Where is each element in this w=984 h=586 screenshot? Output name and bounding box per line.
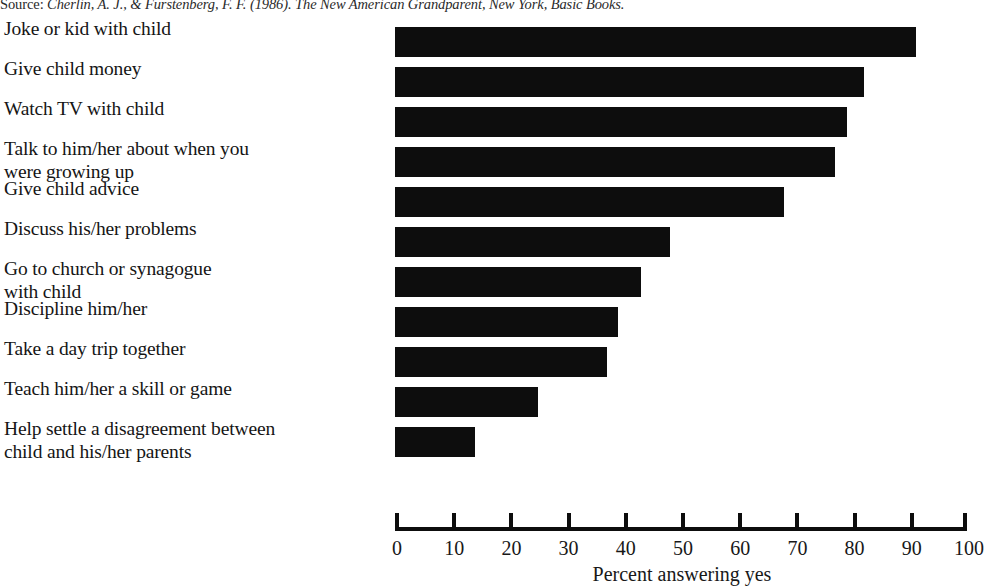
source-prefix: Source:	[0, 0, 44, 12]
bar	[395, 307, 618, 337]
bar	[395, 67, 864, 97]
x-axis-tick-labels: 0102030405060708090100	[395, 536, 973, 562]
x-axis-tick-label: 50	[673, 536, 693, 560]
x-axis-tick-label: 100	[954, 536, 984, 560]
x-axis-tick-label: 70	[787, 536, 807, 560]
x-axis-tick	[567, 513, 571, 530]
category-label-line: Give child money	[4, 57, 388, 80]
category-label: Teach him/her a skill or game	[4, 377, 388, 400]
category-label-line: Take a day trip together	[4, 337, 388, 360]
x-axis-tick-label: 30	[559, 536, 579, 560]
category-label: Give child money	[4, 57, 388, 80]
source-text: Cherlin, A. J., & Furstenberg, F. F. (19…	[44, 0, 625, 12]
x-axis-tick	[963, 513, 967, 530]
category-label-line: Watch TV with child	[4, 97, 388, 120]
bar	[395, 227, 670, 257]
x-axis-tick	[910, 513, 914, 530]
source-citation: Source: Cherlin, A. J., & Furstenberg, F…	[0, 0, 969, 14]
bar	[395, 147, 835, 177]
x-axis-tick-label: 90	[902, 536, 922, 560]
category-label: Discuss his/her problems	[4, 217, 388, 240]
category-axis-labels: Joke or kid with childGive child moneyWa…	[0, 18, 388, 518]
x-axis-tick	[853, 513, 857, 530]
category-label: Help settle a disagreement betweenchild …	[4, 417, 388, 463]
plot-area	[395, 18, 969, 518]
bar	[395, 387, 538, 417]
category-label: Take a day trip together	[4, 337, 388, 360]
category-label-line: Discipline him/her	[4, 297, 388, 320]
bar-chart: Joke or kid with childGive child moneyWa…	[0, 18, 969, 582]
x-axis-tick	[681, 513, 685, 530]
x-axis-tick-label: 0	[392, 536, 402, 560]
bar	[395, 107, 847, 137]
bar	[395, 187, 784, 217]
category-label-line: Talk to him/her about when you	[4, 137, 388, 160]
category-label: Joke or kid with child	[4, 17, 388, 40]
x-axis-tick	[738, 513, 742, 530]
category-label-line: Give child advice	[4, 177, 388, 200]
bar	[395, 347, 607, 377]
category-label: Give child advice	[4, 177, 388, 200]
x-axis-tick	[395, 513, 399, 530]
x-axis-tick	[795, 513, 799, 530]
bar	[395, 427, 475, 457]
x-axis-tick	[624, 513, 628, 530]
category-label-line: Joke or kid with child	[4, 17, 388, 40]
x-axis-tick-label: 20	[501, 536, 521, 560]
x-axis-tick	[452, 513, 456, 530]
category-label-line: Go to church or synagogue	[4, 257, 388, 280]
category-label: Discipline him/her	[4, 297, 388, 320]
bar	[395, 27, 916, 57]
x-axis-tick-label: 40	[616, 536, 636, 560]
category-label-line: child and his/her parents	[4, 440, 388, 463]
x-axis-tick-label: 80	[845, 536, 865, 560]
x-axis-title: Percent answering yes	[395, 562, 969, 586]
category-label-line: Discuss his/her problems	[4, 217, 388, 240]
x-axis	[395, 513, 969, 537]
category-label-line: Help settle a disagreement between	[4, 417, 388, 440]
category-label: Watch TV with child	[4, 97, 388, 120]
x-axis-tick-label: 60	[730, 536, 750, 560]
category-label-line: Teach him/her a skill or game	[4, 377, 388, 400]
x-axis-tick	[509, 513, 513, 530]
bar	[395, 267, 641, 297]
x-axis-tick-label: 10	[444, 536, 464, 560]
